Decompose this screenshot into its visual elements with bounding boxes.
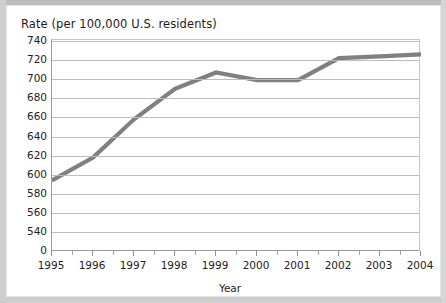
x-tick-minor-0 <box>72 251 73 255</box>
figure-shadow-right <box>441 0 446 303</box>
y-tick-label-740: 740 <box>11 34 47 46</box>
x-tick-minor-2 <box>154 251 155 255</box>
gridline-560 <box>52 213 419 214</box>
y-tick-label-720: 720 <box>11 53 47 65</box>
y-tick-label-660: 660 <box>11 110 47 122</box>
y-tick-label-640: 640 <box>11 130 47 142</box>
x-tick-label-1997: 1997 <box>120 259 147 271</box>
x-tick-label-2002: 2002 <box>325 259 352 271</box>
x-tick-minor-1 <box>113 251 114 255</box>
x-tick-minor-6 <box>318 251 319 255</box>
gridline-580 <box>52 194 419 195</box>
y-tick-label-580: 580 <box>11 187 47 199</box>
chart-canvas: Rate (per 100,000 U.S. residents) 740720… <box>6 5 441 297</box>
x-tick-label-2003: 2003 <box>366 259 393 271</box>
gridline-720 <box>52 60 419 61</box>
x-tick-2003 <box>379 251 380 256</box>
x-tick-2004 <box>420 251 421 256</box>
y-tick-label-0: 0 <box>11 244 47 256</box>
y-tick-label-560: 560 <box>11 206 47 218</box>
x-tick-label-2001: 2001 <box>284 259 311 271</box>
x-axis-title: Year <box>7 282 446 294</box>
gridline-600 <box>52 175 419 176</box>
x-tick-1996 <box>92 251 93 256</box>
gridline-700 <box>52 79 419 80</box>
x-tick-minor-3 <box>195 251 196 255</box>
gridline-740 <box>52 41 419 42</box>
line-series <box>52 40 421 252</box>
x-tick-label-1999: 1999 <box>202 259 229 271</box>
x-tick-label-2000: 2000 <box>243 259 270 271</box>
gridline-680 <box>52 98 419 99</box>
x-tick-label-1996: 1996 <box>79 259 106 271</box>
y-tick-label-700: 700 <box>11 72 47 84</box>
chart-figure: Rate (per 100,000 U.S. residents) 740720… <box>0 0 446 303</box>
x-tick-2000 <box>256 251 257 256</box>
x-tick-minor-5 <box>277 251 278 255</box>
gridline-540 <box>52 232 419 233</box>
y-tick-label-540: 540 <box>11 225 47 237</box>
y-tick-label-680: 680 <box>11 91 47 103</box>
x-tick-2001 <box>297 251 298 256</box>
figure-shadow-bottom <box>0 297 446 303</box>
x-tick-1998 <box>174 251 175 256</box>
chart-title: Rate (per 100,000 U.S. residents) <box>21 17 217 31</box>
plot-area <box>51 39 420 251</box>
y-tick-label-620: 620 <box>11 149 47 161</box>
x-tick-minor-7 <box>359 251 360 255</box>
x-axis: 1995199619971998199920002001200220032004 <box>51 251 421 281</box>
x-tick-minor-8 <box>400 251 401 255</box>
x-tick-label-1998: 1998 <box>161 259 188 271</box>
x-tick-1999 <box>215 251 216 256</box>
y-tick-label-600: 600 <box>11 168 47 180</box>
x-tick-label-1995: 1995 <box>38 259 65 271</box>
gridline-660 <box>52 117 419 118</box>
x-tick-2002 <box>338 251 339 256</box>
x-tick-1997 <box>133 251 134 256</box>
x-tick-1995 <box>51 251 52 256</box>
gridline-640 <box>52 137 419 138</box>
x-tick-label-2004: 2004 <box>407 259 434 271</box>
y-axis: 7407207006806606406206005805605400 <box>7 39 47 261</box>
x-tick-minor-4 <box>236 251 237 255</box>
gridline-620 <box>52 156 419 157</box>
